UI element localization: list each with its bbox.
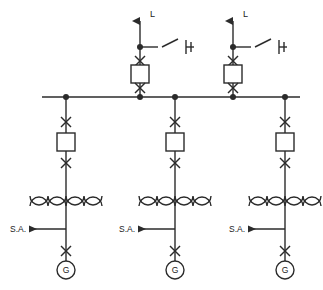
single-line-diagram: L L S.A. S.A. S.A. G G G bbox=[0, 0, 323, 290]
surge-arrester-label-1: S.A. bbox=[10, 224, 26, 234]
generator-branch-3-circuit-breaker bbox=[276, 133, 294, 151]
feeder-1-label: L bbox=[150, 9, 155, 19]
generator-label-1: G bbox=[63, 265, 70, 275]
bus-node-3 bbox=[172, 94, 178, 100]
generator-label-3: G bbox=[282, 265, 289, 275]
single-line-diagram-canvas: L L S.A. S.A. S.A. G G G bbox=[0, 0, 323, 290]
feeder-2-circuit-breaker bbox=[224, 65, 242, 83]
bus-node-5 bbox=[282, 94, 288, 100]
bus-node-2 bbox=[137, 94, 143, 100]
generator-branch-2-circuit-breaker bbox=[166, 133, 184, 151]
diagram-labels: L L S.A. S.A. S.A. G G G bbox=[10, 9, 288, 275]
generator-label-2: G bbox=[172, 265, 179, 275]
diagram-fills bbox=[63, 44, 288, 100]
bus-node-1 bbox=[63, 94, 69, 100]
feeder-2-label: L bbox=[243, 9, 248, 19]
feeder-1-tap-node bbox=[137, 44, 143, 50]
feeder-2-disconnect-blade bbox=[255, 39, 271, 47]
surge-arrester-label-2: S.A. bbox=[119, 224, 135, 234]
bus-node-4 bbox=[230, 94, 236, 100]
generator-branch-1-circuit-breaker bbox=[57, 133, 75, 151]
feeder-1-disconnect-blade bbox=[162, 39, 178, 47]
feeder-1-circuit-breaker bbox=[131, 65, 149, 83]
surge-arrester-label-3: S.A. bbox=[229, 224, 245, 234]
diagram-lines bbox=[29, 21, 321, 279]
feeder-2-tap-node bbox=[230, 44, 236, 50]
